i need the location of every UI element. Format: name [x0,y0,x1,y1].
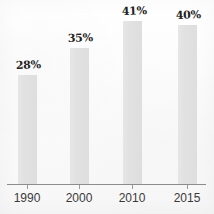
x-axis-label-2000: 2000 [54,191,104,205]
x-axis-label-1990: 1990 [2,191,52,205]
x-axis-tick-2010 [132,185,133,189]
bar-value-label-2010: 41% [122,4,148,18]
x-axis-tick-1990 [27,185,28,189]
bar-value-label-2015: 40% [176,8,202,22]
bar-1990 [18,75,37,185]
x-axis-line [7,184,206,185]
x-axis-label-2010: 2010 [107,191,157,205]
bar-value-label-1990: 28% [16,58,42,72]
plot-area: 28% 35% 41% 40% 1990 2000 2010 2015 [0,0,214,214]
x-axis-tick-2000 [79,185,80,189]
bar-2015 [178,25,197,185]
bar-chart: 28% 35% 41% 40% 1990 2000 2010 2015 [0,0,214,214]
x-axis-tick-2015 [187,185,188,189]
bar-2000 [70,48,89,185]
bar-2010 [123,21,142,185]
x-axis-label-2015: 2015 [162,191,212,205]
bar-value-label-2000: 35% [68,31,94,45]
